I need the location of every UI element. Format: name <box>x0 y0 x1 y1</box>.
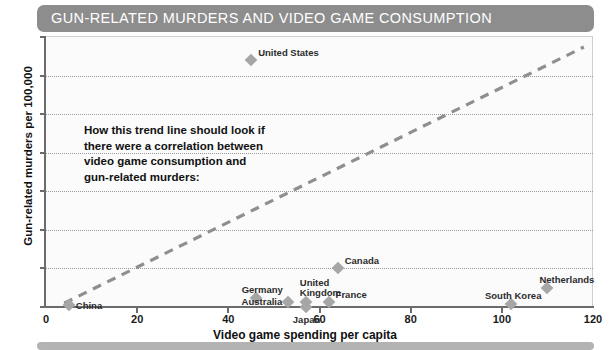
data-point-label: France <box>336 290 367 300</box>
trend-annotation: How this trend line should look if there… <box>84 123 265 185</box>
gridline <box>46 114 593 116</box>
y-tick-mark <box>40 306 45 308</box>
data-point-label: United States <box>258 48 319 58</box>
x-tick-label: 80 <box>405 313 417 325</box>
x-tick-label: 120 <box>584 313 602 325</box>
x-tick-label: 0 <box>43 313 49 325</box>
y-tick-mark <box>40 229 45 231</box>
chart-title-banner: GUN-RELATED MURDERS AND VIDEO GAME CONSU… <box>37 5 594 32</box>
y-tick-mark <box>40 75 45 77</box>
x-tick-label: 40 <box>222 313 234 325</box>
gridline <box>46 230 593 232</box>
gridline <box>46 191 593 193</box>
y-axis-title: Gun-related murders per 100,000 <box>22 66 34 246</box>
x-axis-title: Video game spending per capita <box>0 328 610 342</box>
data-point-label: China <box>76 301 102 311</box>
y-tick-mark <box>40 190 45 192</box>
data-point-label: South Korea <box>485 291 541 301</box>
data-point-label: Canada <box>345 256 379 266</box>
x-tick-label: 20 <box>131 313 143 325</box>
gridline <box>46 268 593 270</box>
x-tick-label: 100 <box>493 313 511 325</box>
chart-title: GUN-RELATED MURDERS AND VIDEO GAME CONSU… <box>51 10 492 26</box>
bottom-divider-bar <box>37 342 594 350</box>
data-point-label: Germany <box>242 285 283 295</box>
data-point-label: Netherlands <box>539 275 594 285</box>
data-point-label: Japan <box>293 315 320 325</box>
y-tick-mark <box>40 267 45 269</box>
y-tick-mark <box>40 152 45 154</box>
y-tick-mark <box>40 36 45 38</box>
data-point-label: Australia <box>242 297 283 307</box>
gridline <box>46 76 593 78</box>
y-tick-mark <box>40 113 45 115</box>
